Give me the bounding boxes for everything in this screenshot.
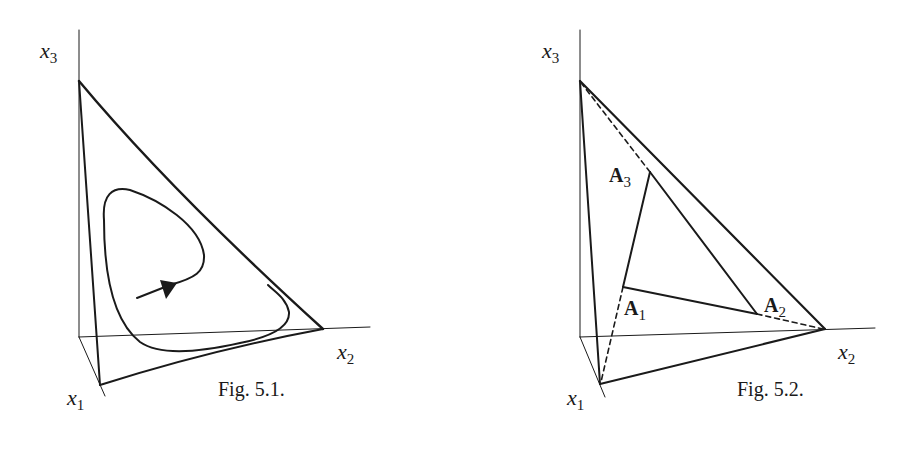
x3-label: x3 xyxy=(39,38,57,66)
x2-label: x2 xyxy=(837,339,855,367)
x2-axis xyxy=(79,327,370,337)
orbit-direction-arrow-icon xyxy=(160,280,177,299)
simplex-edge-top-right xyxy=(580,81,825,329)
x1-axis xyxy=(580,337,605,397)
figure-canvas: x3 x2 x1 Fig. 5.1. x3 x2 x1 A3 A1 A2 Fig… xyxy=(0,0,911,460)
x3-label: x3 xyxy=(541,38,559,66)
point-a3-label: A3 xyxy=(609,164,631,190)
fig-5-1 xyxy=(79,30,370,396)
figure-caption: Fig. 5.2. xyxy=(737,378,804,401)
simplex-edge-bottom xyxy=(600,329,825,384)
fig-5-2 xyxy=(580,30,875,397)
point-a1-label: A1 xyxy=(624,297,646,323)
simplex-edge-left xyxy=(79,81,100,385)
x1-label: x1 xyxy=(66,385,84,413)
simplex-edge-top-right xyxy=(79,81,323,329)
dashed-a1-bottom xyxy=(601,287,623,382)
x1-axis xyxy=(79,337,105,396)
x2-axis xyxy=(580,328,875,337)
dashed-a3-top xyxy=(582,84,650,172)
figure-caption: Fig. 5.1. xyxy=(218,378,285,401)
x2-label: x2 xyxy=(336,339,354,367)
x1-label: x1 xyxy=(566,385,584,413)
simplex-edge-left xyxy=(580,81,600,384)
